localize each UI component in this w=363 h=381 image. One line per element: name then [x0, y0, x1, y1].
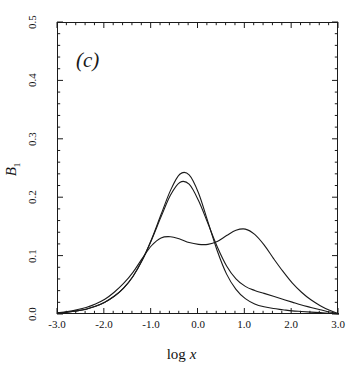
curve-2: [58, 181, 339, 313]
y-tick-label-3: 0.2: [26, 182, 38, 212]
y-tick-label-1: 0.4: [26, 65, 38, 95]
y-tick-label-5: 0.0: [26, 299, 38, 329]
x-tick-label-2: -1.0: [134, 318, 168, 330]
y-axis-label-subscript: 1: [12, 163, 22, 168]
x-tick-label-0: -3.0: [40, 318, 74, 330]
curve-3: [58, 229, 339, 314]
x-tick-label-3: 0.0: [181, 318, 215, 330]
curves-layer: [58, 23, 339, 315]
curve-1: [58, 172, 339, 313]
x-tick-label-1: -2.0: [87, 318, 121, 330]
x-tick-label-5: 2.0: [274, 318, 308, 330]
x-axis-label-prefix: log: [167, 346, 190, 362]
x-axis-label-variable: x: [190, 346, 197, 362]
x-axis-label: log x: [0, 346, 363, 363]
y-axis-label: B1: [3, 163, 22, 177]
panel-label: (c): [76, 48, 99, 73]
y-tick-label-0: 0.5: [26, 7, 38, 37]
x-tick-label-6: 3.0: [321, 318, 355, 330]
y-tick-label-4: 0.1: [26, 241, 38, 271]
y-tick-label-2: 0.3: [26, 124, 38, 154]
figure-panel-c: (c) 0.5 0.4 0.3 0.2 0.1 0.0 -3.0 -2.0 -1…: [0, 0, 363, 381]
x-tick-label-4: 1.0: [227, 318, 261, 330]
y-axis-label-variable: B: [3, 167, 19, 176]
